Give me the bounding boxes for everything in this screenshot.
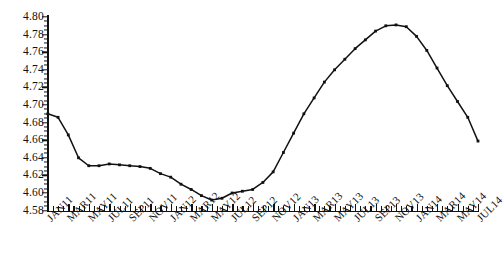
series-markers — [46, 24, 479, 202]
data-point — [354, 47, 357, 50]
data-point — [292, 132, 295, 135]
data-point — [128, 164, 131, 167]
data-point — [108, 163, 111, 166]
data-point — [405, 25, 408, 28]
data-point — [323, 81, 326, 84]
data-point — [46, 112, 49, 115]
data-point — [446, 84, 449, 87]
data-point — [425, 49, 428, 52]
data-point — [149, 167, 152, 170]
data-point — [477, 140, 480, 143]
data-point — [384, 24, 387, 27]
data-point — [282, 151, 285, 154]
data-point — [200, 194, 203, 197]
data-point — [313, 97, 316, 100]
series-line — [48, 25, 478, 200]
data-point — [466, 116, 469, 119]
data-point — [333, 68, 336, 71]
data-point — [364, 38, 367, 41]
data-point — [221, 197, 224, 200]
data-point — [395, 24, 398, 27]
data-point — [67, 134, 70, 137]
data-point — [190, 188, 193, 191]
data-point — [159, 172, 162, 175]
data-point — [98, 164, 101, 167]
data-point — [118, 163, 121, 166]
data-point — [456, 100, 459, 103]
data-point — [241, 190, 244, 193]
data-point — [77, 156, 80, 159]
data-point — [251, 188, 254, 191]
data-point — [302, 112, 305, 115]
data-point — [415, 35, 418, 38]
data-point — [374, 30, 377, 33]
data-point — [210, 199, 213, 202]
data-point — [343, 58, 346, 61]
data-point — [169, 176, 172, 179]
data-point — [57, 116, 60, 119]
data-point — [436, 67, 439, 70]
data-point — [87, 164, 90, 167]
data-point — [262, 181, 265, 184]
data-point — [231, 192, 234, 195]
data-point — [180, 183, 183, 186]
data-point — [272, 170, 275, 173]
data-point — [139, 165, 142, 168]
